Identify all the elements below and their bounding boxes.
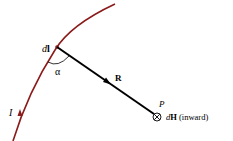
point-label: P xyxy=(158,99,165,109)
angle-label: α xyxy=(55,66,61,77)
current-wire xyxy=(13,4,115,141)
current-element-label: dl xyxy=(42,43,50,54)
field-label: dH (inward) xyxy=(166,112,208,122)
current-arrow-icon xyxy=(18,109,23,116)
distance-vector-label: R xyxy=(115,73,122,83)
inward-field-icon xyxy=(153,113,161,121)
biot-savart-diagram: dl α R P dH (inward) I xyxy=(0,0,233,141)
current-label: I xyxy=(8,107,13,118)
